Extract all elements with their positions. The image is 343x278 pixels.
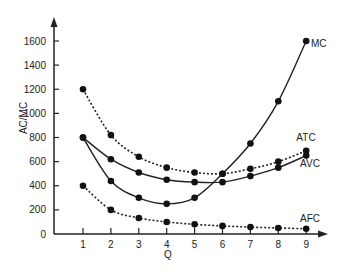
series-afc [80,182,310,232]
data-point [247,140,254,147]
data-point [191,169,198,176]
data-point [247,173,254,180]
y-tick-label: 400 [29,180,46,191]
afc-label: AFC [300,213,320,224]
data-point [219,179,226,186]
data-point [275,164,282,171]
data-point [275,225,282,232]
y-tick-label: 200 [29,204,46,215]
atc-line [83,89,306,174]
x-ticks: 123456789 [80,228,309,250]
data-point [108,156,115,163]
data-point [247,224,254,231]
atc-label: ATC [296,132,315,143]
cost-curves-chart: 02004006008001000120014001600 123456789 … [0,0,343,278]
data-point [80,86,87,93]
data-point [275,98,282,105]
series-avc [80,134,310,185]
data-point [303,225,310,232]
data-point [136,215,143,222]
data-point [108,207,115,214]
data-point [136,169,143,176]
data-point [191,195,198,202]
y-tick-label: 1200 [24,84,47,95]
data-point [247,166,254,173]
data-point [108,178,115,185]
mc-label: MC [311,38,327,49]
data-point [80,134,87,141]
data-point [303,38,310,45]
data-point [80,182,87,189]
x-tick-label: 7 [248,239,254,250]
y-tick-label: 1600 [24,36,47,47]
x-tick-label: 3 [136,239,142,250]
data-point [191,179,198,186]
y-tick-label: 1400 [24,60,47,71]
avc-line [83,138,306,183]
x-axis-label: Q [164,249,172,260]
data-point [163,201,170,208]
data-point [136,154,143,161]
series-atc [80,86,310,177]
x-tick-label: 1 [80,239,86,250]
data-point [219,170,226,177]
y-axis-arrow-icon [51,17,58,27]
data-point [108,132,115,139]
avc-label: AVC [300,158,320,169]
data-point [163,219,170,226]
x-tick-label: 6 [220,239,226,250]
data-point [163,176,170,183]
series [80,38,310,232]
x-tick-label: 5 [192,239,198,250]
x-tick-label: 2 [108,239,114,250]
data-point [163,164,170,171]
data-point [136,195,143,202]
x-tick-label: 9 [303,239,309,250]
y-axis-label: AC/MC [18,102,29,134]
x-axis-arrow-icon [318,231,328,238]
y-tick-label: 0 [40,229,46,240]
data-point [275,158,282,165]
y-tick-label: 800 [29,132,46,143]
axes: 02004006008001000120014001600 123456789 … [18,17,328,260]
data-point [219,223,226,230]
series-labels: MC ATC AVC AFC [296,38,326,224]
y-tick-label: 600 [29,156,46,167]
x-tick-label: 8 [276,239,282,250]
data-point [191,221,198,228]
